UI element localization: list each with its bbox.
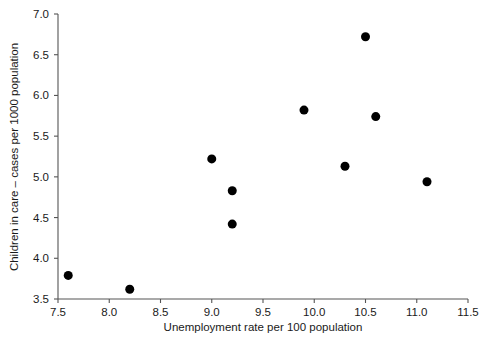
children-in-care-axis <box>54 14 58 299</box>
data-point <box>371 112 380 121</box>
x-tick-label: 10.5 <box>354 306 376 318</box>
y-tick-label: 4.0 <box>33 252 49 264</box>
y-tick-label: 3.5 <box>33 293 49 305</box>
data-point <box>300 106 309 115</box>
y-tick-label: 5.5 <box>33 130 49 142</box>
data-points-layer <box>64 32 432 293</box>
y-tick-label: 6.5 <box>33 49 49 61</box>
data-point <box>125 285 134 294</box>
x-tick-label: 7.5 <box>50 306 66 318</box>
x-tick-label: 11.0 <box>406 306 428 318</box>
x-tick-label: 9.5 <box>255 306 271 318</box>
scatter-plot-figure: 3.54.04.55.05.56.06.57.0 7.58.08.59.09.5… <box>0 0 487 342</box>
data-point <box>228 186 237 195</box>
data-point <box>228 220 237 229</box>
plot-canvas: 3.54.04.55.05.56.06.57.0 7.58.08.59.09.5… <box>0 0 487 342</box>
x-axis-tick-labels: 7.58.08.59.09.510.010.511.011.5 <box>50 306 479 318</box>
x-tick-label: 10.0 <box>303 306 325 318</box>
data-point <box>361 32 370 41</box>
x-tick-label: 9.0 <box>204 306 220 318</box>
x-axis-title: Unemployment rate per 100 population <box>164 321 363 333</box>
unemployment-rate-axis <box>58 299 468 303</box>
y-axis-title: Children in care – cases per 1000 popula… <box>8 43 20 271</box>
x-tick-label: 11.5 <box>457 306 479 318</box>
y-tick-label: 5.0 <box>33 171 49 183</box>
y-tick-label: 6.0 <box>33 89 49 101</box>
data-point <box>64 271 73 280</box>
data-point <box>341 162 350 171</box>
data-point <box>423 177 432 186</box>
x-tick-label: 8.5 <box>153 306 169 318</box>
y-tick-label: 4.5 <box>33 212 49 224</box>
x-tick-label: 8.0 <box>101 306 117 318</box>
y-axis-tick-labels: 3.54.04.55.05.56.06.57.0 <box>33 8 49 305</box>
data-point <box>207 154 216 163</box>
y-tick-label: 7.0 <box>33 8 49 20</box>
